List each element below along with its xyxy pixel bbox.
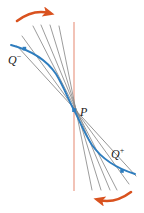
label-q-minus: Q− [8, 54, 21, 66]
label-q-minus-superscript: − [17, 52, 22, 61]
secant-line-fan [17, 25, 136, 190]
label-q-plus-superscript: + [120, 146, 125, 155]
top-arrow-icon [17, 12, 49, 21]
point-q-minus-marker [23, 47, 27, 51]
secant-tangent-diagram: Q− P Q+ [0, 0, 144, 213]
label-q-plus: Q+ [111, 148, 124, 160]
marked-points [23, 47, 124, 173]
point-p-marker [72, 108, 76, 112]
diagram-canvas [0, 0, 144, 213]
label-q-plus-base: Q [111, 147, 120, 161]
label-p: P [80, 106, 87, 118]
secant-line [33, 26, 117, 190]
bottom-arrow-icon [99, 192, 131, 201]
label-q-minus-base: Q [8, 53, 17, 67]
point-q-plus-marker [120, 169, 124, 173]
